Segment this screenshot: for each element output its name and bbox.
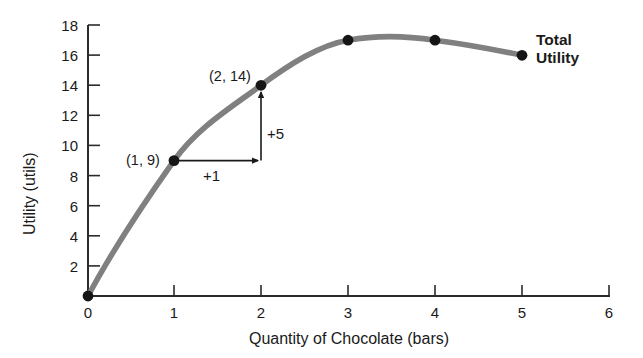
data-point-markers: [83, 35, 528, 302]
y-tick-label-4: 4: [58, 229, 78, 244]
point-1-coordinate-label: (1, 9): [126, 153, 160, 168]
x-tick-label-2: 2: [257, 305, 265, 320]
x-tick-label-4: 4: [431, 305, 439, 320]
data-point-4: [430, 35, 441, 46]
x-tick-label-1: 1: [170, 305, 178, 320]
x-tick-label-6: 6: [605, 305, 613, 320]
x-tick-label-0: 0: [84, 305, 92, 320]
x-axis-ticks: [174, 285, 609, 296]
y-tick-label-6: 6: [58, 199, 78, 214]
data-point-1: [169, 155, 180, 166]
y-tick-label-18: 18: [58, 18, 78, 33]
x-tick-label-3: 3: [344, 305, 352, 320]
y-axis-title: Utility (utils): [22, 152, 38, 235]
y-axis-ticks: [88, 25, 100, 266]
data-point-5: [517, 50, 528, 61]
y-tick-label-10: 10: [58, 138, 78, 153]
run-delta-label: +1: [203, 168, 220, 183]
series-label-total-utility: Total Utility: [536, 31, 579, 68]
data-point-2: [256, 80, 267, 91]
series-label-line-1: Total: [536, 31, 579, 49]
y-tick-label-8: 8: [58, 169, 78, 184]
y-tick-label-2: 2: [58, 259, 78, 274]
y-tick-label-14: 14: [58, 78, 78, 93]
data-point-3: [343, 35, 354, 46]
data-point-0: [83, 291, 94, 302]
y-tick-label-12: 12: [58, 108, 78, 123]
total-utility-chart: 18 16 14 12 10 8 6 4 2 0 1 2 3 4 5 6 Uti…: [0, 0, 643, 358]
rise-delta-label: +5: [267, 126, 284, 141]
x-axis-title: Quantity of Chocolate (bars): [249, 331, 449, 347]
series-label-line-2: Utility: [536, 49, 579, 67]
y-tick-label-16: 16: [58, 48, 78, 63]
x-tick-label-5: 5: [518, 305, 526, 320]
point-2-coordinate-label: (2, 14): [209, 69, 251, 84]
